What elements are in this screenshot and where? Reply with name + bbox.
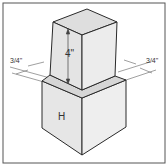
left-offset-label: 3/4"	[10, 57, 23, 64]
stacked-cubes-diagram: 4" 3/4" 3/4" H	[0, 0, 168, 168]
top-cube	[50, 9, 117, 90]
right-offset-label: 3/4"	[146, 57, 159, 64]
bottom-face-label: H	[58, 111, 65, 122]
height-label: 4"	[65, 48, 75, 59]
